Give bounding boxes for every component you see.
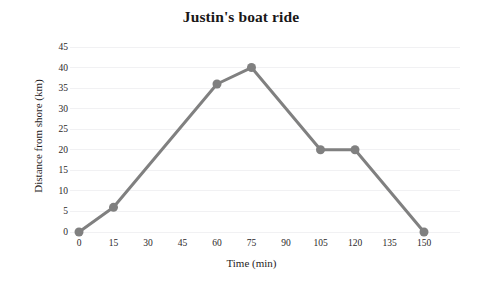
data-point-marker [316, 145, 325, 154]
x-axis-title: Time (min) [79, 257, 424, 269]
line-path [79, 68, 424, 232]
data-point-marker [213, 80, 222, 89]
y-axis-title: Distance from shore (km) [32, 36, 44, 236]
data-point-marker [109, 203, 118, 212]
data-point-marker [247, 63, 256, 72]
data-series-line [0, 0, 482, 283]
data-point-marker [420, 228, 429, 237]
data-point-markers [75, 63, 429, 236]
data-point-marker [351, 145, 360, 154]
data-point-marker [75, 228, 84, 237]
chart-container: Justin's boat ride 051015202530354045 01… [0, 0, 482, 283]
plot-area: 051015202530354045 015304560759010512013… [0, 0, 482, 283]
